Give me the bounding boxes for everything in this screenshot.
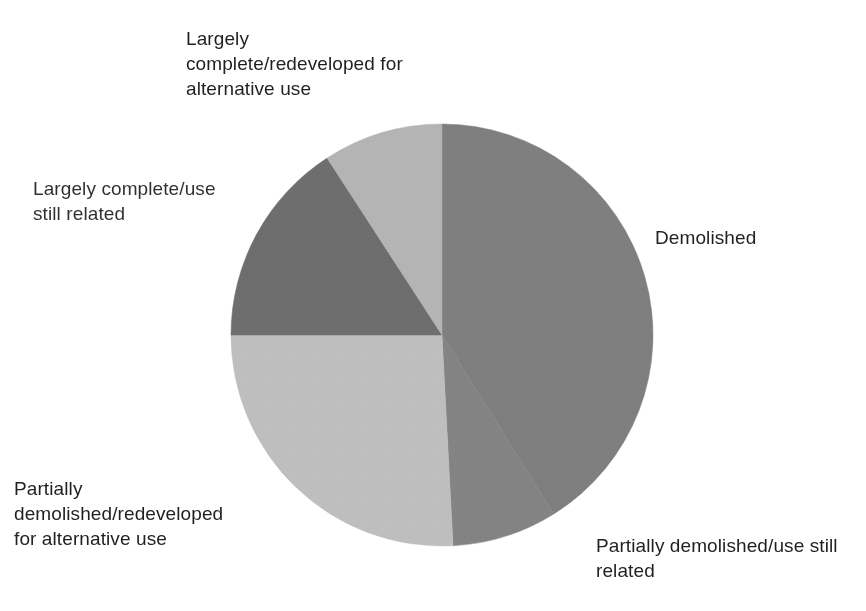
pie-label-demolished: Demolished [655, 225, 855, 250]
chart-page: Largely complete/redeveloped for alterna… [0, 0, 866, 611]
pie-chart [230, 123, 654, 547]
pie-chart-svg [230, 123, 654, 547]
pie-slice [231, 335, 453, 546]
pie-slice-group [231, 124, 653, 546]
pie-label-largely-complete-redeveloped: Largely complete/redeveloped for alterna… [186, 26, 486, 101]
